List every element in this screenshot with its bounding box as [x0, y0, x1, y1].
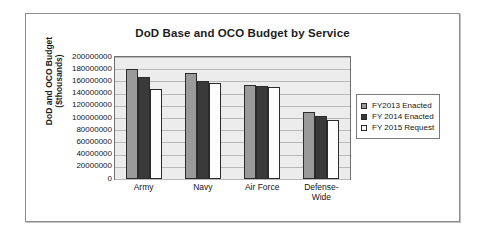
bar[interactable]	[138, 77, 150, 179]
x-axis-tick-labels: ArmyNavyAir ForceDefense-Wide	[114, 182, 351, 202]
legend-item[interactable]: FY2013 Enacted	[361, 101, 434, 110]
y-axis-tick-label: 140000000	[72, 88, 112, 97]
bar[interactable]	[209, 83, 221, 179]
plot-area	[114, 56, 351, 180]
y-axis-tick-label: 100000000	[72, 113, 112, 122]
legend-label: FY 2015 Request	[372, 123, 434, 132]
gridline	[115, 179, 350, 180]
x-axis-tick-label-line: Navy	[175, 182, 231, 192]
bars-layer	[115, 57, 350, 179]
y-axis-tick-label: 180000000	[72, 64, 112, 73]
bar[interactable]	[315, 116, 327, 179]
y-axis-tick-label: 200000000	[72, 52, 112, 61]
legend-label: FY 2014 Enacted	[372, 112, 434, 121]
x-axis-tick-label: Defense-Wide	[293, 182, 349, 202]
bar-group	[185, 57, 221, 179]
bar[interactable]	[268, 87, 280, 179]
bar[interactable]	[327, 120, 339, 179]
x-axis-tick-label-line: Wide	[293, 192, 349, 202]
legend-item[interactable]: FY 2014 Enacted	[361, 112, 434, 121]
bar[interactable]	[150, 89, 162, 179]
x-axis-tick-label-line: Air Force	[234, 182, 290, 192]
bar[interactable]	[126, 69, 138, 179]
y-axis-tick-label: 120000000	[72, 100, 112, 109]
bar-group	[126, 57, 162, 179]
x-axis-tick-label: Air Force	[234, 182, 290, 202]
chart-figure: DoD Base and OCO Budget by Service DoD a…	[25, 13, 460, 222]
y-axis-tick-label: 60000000	[76, 137, 112, 146]
bar[interactable]	[185, 73, 197, 179]
bar[interactable]	[256, 86, 268, 179]
legend-swatch-icon	[361, 125, 367, 131]
x-axis-tick-label-line: Army	[116, 182, 172, 192]
bar[interactable]	[197, 81, 209, 179]
y-axis-tick-label: 40000000	[76, 149, 112, 158]
legend-item[interactable]: FY 2015 Request	[361, 123, 434, 132]
y-axis-tick-label: 160000000	[72, 76, 112, 85]
y-axis-tick-labels: 2000000001800000001600000001400000001200…	[54, 50, 112, 184]
y-axis-title-line1: DoD and OCO Budget	[44, 37, 54, 125]
x-axis-tick-label-line: Defense-	[293, 182, 349, 192]
bar[interactable]	[244, 85, 256, 179]
y-axis-tick-label: 20000000	[76, 161, 112, 170]
bar-group	[244, 57, 280, 179]
bar-group	[303, 57, 339, 179]
legend-swatch-icon	[361, 114, 367, 120]
y-axis-tick-label: 80000000	[76, 125, 112, 134]
bar[interactable]	[303, 112, 315, 179]
legend-label: FY2013 Enacted	[372, 101, 432, 110]
y-axis-tick-label: 0	[108, 174, 112, 183]
chart-title: DoD Base and OCO Budget by Service	[26, 27, 459, 39]
x-axis-tick-label: Navy	[175, 182, 231, 202]
x-axis-tick-label: Army	[116, 182, 172, 202]
chart-legend: FY2013 EnactedFY 2014 EnactedFY 2015 Req…	[356, 94, 440, 139]
legend-swatch-icon	[361, 103, 367, 109]
